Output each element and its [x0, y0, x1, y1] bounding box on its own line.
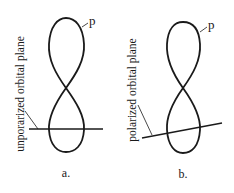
p-label-leader-b — [200, 27, 207, 32]
polarized-plane-line — [142, 123, 222, 138]
p-label-leader-a — [82, 23, 88, 27]
p-orbital-figure-eight-b — [167, 22, 200, 153]
panel-b: p polarized orbital plane b. — [126, 17, 222, 181]
plane-label-b: polarized orbital plane — [126, 38, 139, 141]
panel-a: p unporarized orbital plane a. — [14, 13, 103, 180]
caption-a: a. — [62, 166, 70, 180]
orbital-diagram: p unporarized orbital plane a. p polariz… — [0, 0, 234, 193]
plane-label-leader-a — [25, 111, 38, 129]
p-orbital-figure-eight-a — [49, 18, 84, 152]
p-label-a: p — [89, 13, 96, 28]
p-label-b: p — [208, 17, 215, 32]
plane-label-leader-b — [138, 105, 152, 135]
plane-label-a: unporarized orbital plane — [14, 36, 27, 152]
caption-b: b. — [179, 167, 188, 181]
